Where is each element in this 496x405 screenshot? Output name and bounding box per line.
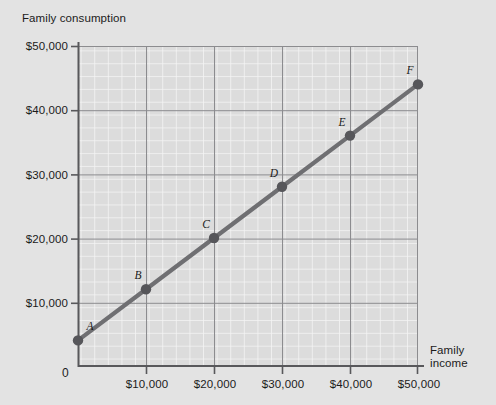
data-point-d (277, 182, 287, 192)
data-point-f (413, 79, 423, 89)
x-tick-label-20000: $20,000 (194, 378, 236, 390)
data-point-c (209, 233, 219, 243)
origin-label: 0 (62, 366, 69, 380)
y-tick-label-20000: $20,000 (0, 233, 68, 245)
point-label-b: B (134, 269, 141, 281)
point-label-a: A (86, 320, 93, 332)
point-label-f: F (406, 64, 413, 76)
y-axis-title: Family consumption (22, 12, 126, 25)
data-point-a (73, 335, 83, 345)
data-point-e (345, 130, 355, 140)
x-axis-title: Familyincome (430, 344, 468, 370)
data-point-b (141, 284, 151, 294)
chart-figure: Family consumption Familyincome 0 $50,00… (0, 0, 496, 405)
y-tick-label-30000: $30,000 (0, 169, 68, 181)
x-tick-label-40000: $40,000 (330, 378, 372, 390)
point-label-d: D (270, 167, 278, 179)
y-tick-label-40000: $40,000 (0, 104, 68, 116)
x-axis-title-line2: income (430, 357, 468, 369)
y-tick-label-50000: $50,000 (0, 40, 68, 52)
y-axis-ticks (71, 47, 78, 304)
chart-canvas (0, 0, 496, 405)
x-axis-ticks (147, 366, 418, 374)
x-tick-label-10000: $10,000 (126, 378, 168, 390)
plot-area-background (78, 46, 418, 367)
x-tick-label-30000: $30,000 (262, 378, 304, 390)
point-label-c: C (202, 218, 210, 230)
x-axis-title-line1: Family (430, 344, 464, 356)
x-tick-label-50000: $50,000 (398, 378, 440, 390)
y-tick-label-10000: $10,000 (0, 297, 68, 309)
point-label-e: E (338, 116, 345, 128)
